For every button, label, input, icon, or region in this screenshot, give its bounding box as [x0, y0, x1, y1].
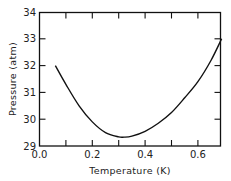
x-tick-label: 0.0 — [32, 149, 48, 160]
y-tick-label: 31 — [23, 87, 36, 98]
y-tick-label: 32 — [23, 60, 36, 71]
x-axis-label: Temperature (K) — [88, 165, 170, 176]
plot-frame — [40, 13, 221, 147]
x-tick-label: 0.4 — [137, 149, 153, 160]
x-tick-labels: 0.00.20.40.6 — [32, 149, 206, 160]
data-curve — [55, 39, 221, 138]
y-tick-label: 30 — [23, 114, 36, 125]
y-axis-label: Pressure (atm) — [7, 42, 18, 116]
y-tick-label: 33 — [23, 33, 36, 44]
x-tick-label: 0.2 — [84, 149, 100, 160]
axis-ticks — [40, 13, 221, 147]
chart: 293031323334 0.00.20.40.6 Temperature (K… — [0, 0, 231, 181]
y-tick-label: 34 — [23, 7, 36, 18]
x-tick-label: 0.6 — [190, 149, 206, 160]
y-tick-labels: 293031323334 — [23, 7, 36, 152]
